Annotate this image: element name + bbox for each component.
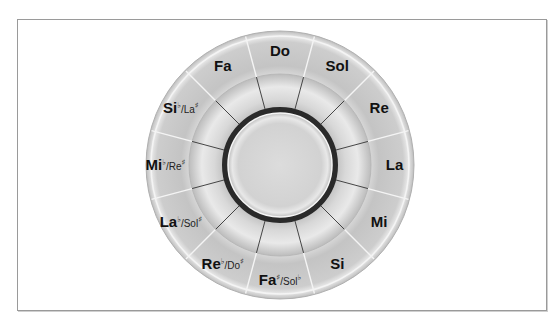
segment-label-part: /Sol: [280, 276, 297, 287]
segment-label-part: Mi: [371, 213, 388, 230]
segment-label-part: Fa: [259, 271, 277, 288]
segment-label-part: /Re: [166, 161, 182, 172]
segment-label-part: Re: [370, 99, 389, 116]
segment-label-part: ♯: [240, 257, 244, 266]
segment-label-part: Fa: [214, 57, 232, 74]
segment-label-part: La: [160, 213, 178, 230]
segment-label-part: Do: [270, 42, 290, 59]
segment-label-part: Si: [163, 99, 177, 116]
segment-label: La: [386, 156, 404, 173]
segment-label-part: /La: [181, 104, 195, 115]
segment-label-part: /Do: [225, 260, 241, 271]
center-disc: [228, 113, 332, 217]
segment-label-part: /Sol: [181, 218, 198, 229]
segment-label-part: ♭: [297, 273, 301, 282]
segment-label: Mi: [371, 213, 388, 230]
segment-label-part: ♯: [198, 215, 202, 224]
segment-label: Do: [270, 42, 290, 59]
segment-label-part: Si: [330, 255, 344, 272]
segment-label-part: ♯: [195, 101, 199, 110]
segment-label-part: La: [386, 156, 404, 173]
segment-label-part: ♯: [182, 158, 186, 167]
segment-label-part: Re: [202, 255, 221, 272]
circle-of-fifths: DoSolReLaMiSiFa♯/Sol♭Re♭/Do♯La♭/Sol♯Mi♭/…: [0, 0, 558, 325]
segment-label: Sol: [326, 57, 349, 74]
segment-label: Re: [370, 99, 389, 116]
segment-label: Fa: [214, 57, 232, 74]
segment-label-part: Mi: [146, 156, 163, 173]
segment-label-part: Sol: [326, 57, 349, 74]
segment-label: Si: [330, 255, 344, 272]
